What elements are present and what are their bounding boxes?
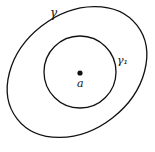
label-a: a — [77, 77, 84, 90]
contour-diagram: γ γ₁ a — [0, 0, 155, 152]
label-gamma1: γ₁ — [117, 54, 128, 67]
label-gamma: γ — [50, 6, 58, 20]
point-a — [77, 70, 82, 75]
outer-curve-gamma — [0, 0, 155, 152]
